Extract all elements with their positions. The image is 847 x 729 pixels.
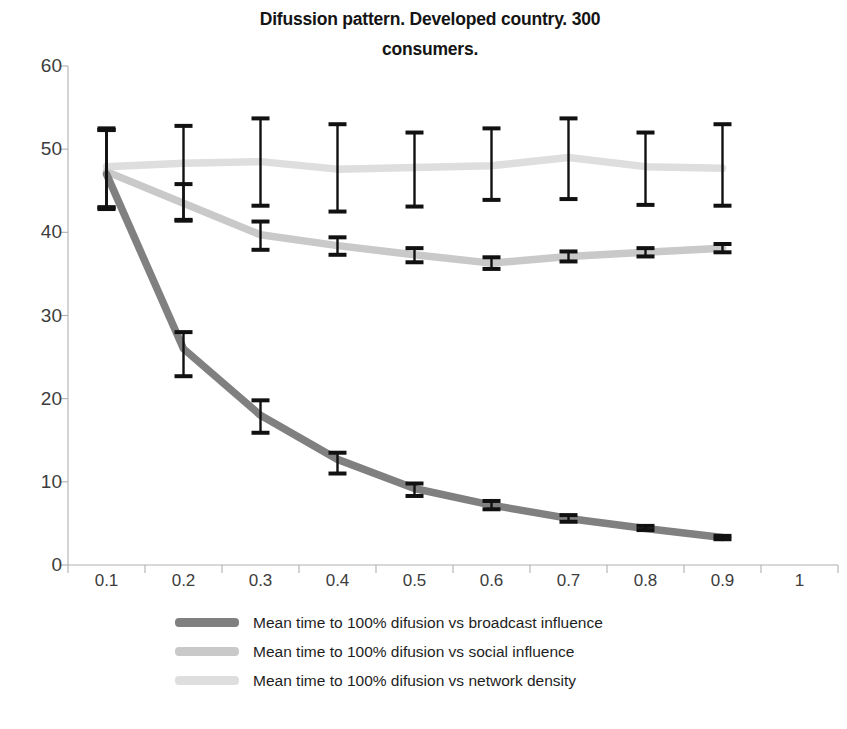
x-axis-tick-label: 0.4 (326, 571, 350, 591)
y-axis-tick-label: 30 (18, 305, 62, 327)
x-axis-tick-label: 0.3 (249, 571, 273, 591)
legend-color-swatch (175, 647, 239, 656)
x-axis-tick-label: 0.9 (711, 571, 735, 591)
y-axis-labels: 0102030405060 (10, 0, 62, 729)
legend-item[interactable]: Mean time to 100% difusion vs social inf… (175, 637, 775, 666)
y-axis-tick-label: 40 (18, 221, 62, 243)
legend-color-swatch (175, 618, 239, 627)
x-axis-tick-label: 1 (795, 571, 804, 591)
legend-item[interactable]: Mean time to 100% difusion vs network de… (175, 666, 775, 695)
y-axis-tick-label: 10 (18, 471, 62, 493)
chart-container: Difussion pattern. Developed country. 30… (0, 0, 847, 729)
y-axis-tick-label: 0 (18, 554, 62, 576)
y-axis-tick-label: 50 (18, 138, 62, 160)
x-axis-tick-label: 0.8 (634, 571, 658, 591)
legend-item[interactable]: Mean time to 100% difusion vs broadcast … (175, 608, 775, 637)
x-axis-tick-label: 0.2 (172, 571, 196, 591)
x-axis-tick-label: 0.1 (95, 571, 119, 591)
legend-item-label: Mean time to 100% difusion vs network de… (253, 672, 576, 690)
x-axis-tick-label: 0.7 (557, 571, 581, 591)
y-axis-tick-label: 20 (18, 388, 62, 410)
x-axis-tick-label: 0.6 (480, 571, 504, 591)
chart-legend: Mean time to 100% difusion vs broadcast … (175, 608, 775, 695)
legend-item-label: Mean time to 100% difusion vs broadcast … (253, 614, 603, 632)
y-axis-tick-label: 60 (18, 55, 62, 77)
x-axis-tick-label: 0.5 (403, 571, 427, 591)
legend-item-label: Mean time to 100% difusion vs social inf… (253, 643, 574, 661)
legend-color-swatch (175, 676, 239, 685)
